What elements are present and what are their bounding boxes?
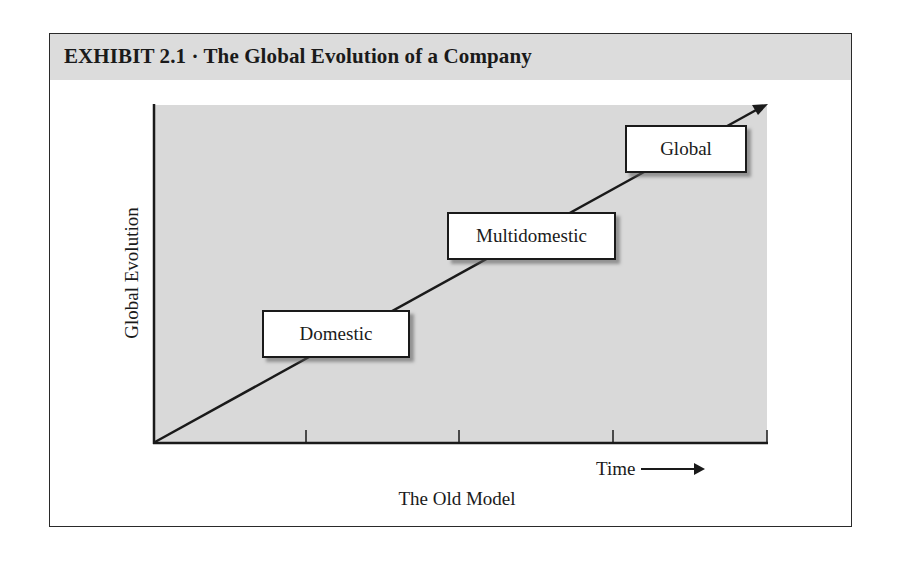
stage-box-multidomestic: Multidomestic: [447, 212, 616, 260]
x-axis-label: Time: [596, 458, 703, 480]
arrowhead-icon: [752, 104, 768, 115]
stage-label: Global: [660, 138, 712, 160]
stage-label: Domestic: [300, 323, 373, 345]
y-axis-label: Global Evolution: [121, 207, 143, 338]
right-arrow-icon: [641, 468, 703, 470]
stage-label: Multidomestic: [476, 225, 587, 247]
stage-box-global: Global: [625, 125, 747, 173]
stage-box-domestic: Domestic: [262, 310, 410, 358]
exhibit-subtitle: The Old Model: [398, 488, 515, 510]
x-axis-label-text: Time: [596, 458, 635, 480]
